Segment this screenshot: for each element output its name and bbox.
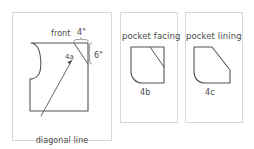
label-piece-4a: 4a <box>65 53 74 61</box>
pocket-facing-outline <box>131 47 164 83</box>
pocket-facing-diagonal <box>150 47 164 67</box>
pattern-diagram: front 4" 6" 4a diagonal line for pocket … <box>0 0 254 149</box>
label-pocket-lining: pocket lining <box>186 32 242 42</box>
label-pocket-facing: pocket facing <box>122 32 180 42</box>
pocket-lining-outline <box>194 47 230 83</box>
caption-diagonal-line-1: diagonal line <box>17 136 107 145</box>
dimension-bracket-4in <box>74 38 88 42</box>
front-piece-outline <box>30 43 88 111</box>
caption-diagonal-line: diagonal line for pocket opening <box>17 118 107 149</box>
label-dimension-6in: 6" <box>94 51 103 60</box>
label-dimension-4in: 4" <box>77 28 86 37</box>
label-piece-4c: 4c <box>205 88 215 97</box>
callout-arrow-line <box>41 60 72 116</box>
label-piece-4b: 4b <box>140 88 150 97</box>
diagonal-pocket-line <box>74 43 88 64</box>
label-front: front <box>51 29 71 38</box>
